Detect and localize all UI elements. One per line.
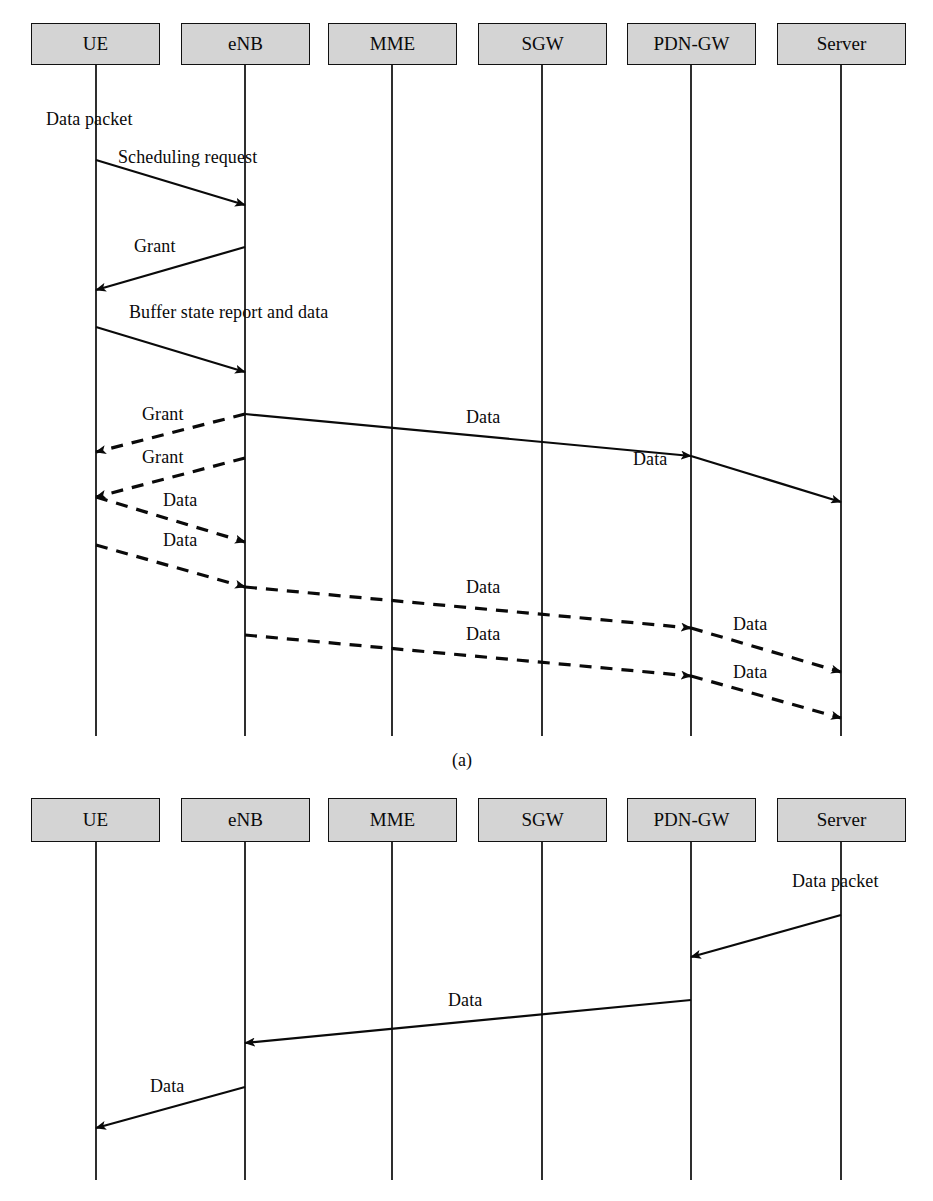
node-box-pdngw-b[interactable]: PDN-GW (627, 798, 756, 842)
message-label-scheduling-request: Scheduling request (118, 148, 257, 166)
message-label-data-pdngw-enb-b: Data (448, 991, 482, 1009)
node-label: PDN-GW (654, 33, 730, 55)
message-arrow-a-6 (691, 456, 841, 502)
node-box-server-a[interactable]: Server (777, 23, 906, 65)
node-box-enb-a[interactable]: eNB (181, 23, 310, 65)
message-arrow-a-3 (96, 327, 245, 372)
message-label-data-enb-pdngw-3: Data (466, 625, 500, 643)
message-arrow-a-9 (96, 545, 245, 587)
lifelines-group (96, 65, 841, 1180)
message-label-data-packet: Data packet (46, 110, 133, 128)
node-box-server-b[interactable]: Server (777, 798, 906, 842)
message-label-data-packet-b: Data packet (792, 872, 879, 890)
node-box-sgw-b[interactable]: SGW (478, 798, 607, 842)
figure-caption-a: (a) (452, 750, 472, 771)
sequence-diagram-canvas (0, 0, 933, 1201)
message-label-grant-3: Grant (142, 448, 183, 466)
message-label-data-enb-pdngw-2: Data (466, 578, 500, 596)
node-box-sgw-a[interactable]: SGW (478, 23, 607, 65)
message-arrow-b-1 (691, 915, 841, 957)
message-label-grant-1: Grant (134, 237, 175, 255)
message-arrow-a-13 (691, 676, 841, 718)
message-label-data-pdngw-server-1: Data (633, 450, 667, 468)
message-label-data-enb-ue-b: Data (150, 1077, 184, 1095)
message-label-data-pdngw-server-2: Data (733, 615, 767, 633)
node-label: UE (83, 33, 108, 55)
node-box-ue-a[interactable]: UE (31, 23, 160, 65)
node-label: Server (817, 33, 867, 55)
message-label-data-ue-enb-2: Data (163, 531, 197, 549)
node-label: MME (370, 809, 415, 831)
node-box-enb-b[interactable]: eNB (181, 798, 310, 842)
message-label-grant-2: Grant (142, 405, 183, 423)
node-box-ue-b[interactable]: UE (31, 798, 160, 842)
message-label-buffer-state-report: Buffer state report and data (129, 303, 328, 321)
node-label: UE (83, 809, 108, 831)
node-label: PDN-GW (654, 809, 730, 831)
node-label: SGW (521, 33, 563, 55)
message-label-data-ue-enb-1: Data (163, 491, 197, 509)
message-label-data-enb-pdngw-1: Data (466, 408, 500, 426)
node-box-mme-a[interactable]: MME (328, 23, 457, 65)
node-label: SGW (521, 809, 563, 831)
node-box-pdngw-a[interactable]: PDN-GW (627, 23, 756, 65)
message-label-data-pdngw-server-3: Data (733, 663, 767, 681)
node-label: eNB (228, 809, 263, 831)
node-label: MME (370, 33, 415, 55)
node-label: eNB (228, 33, 263, 55)
node-box-mme-b[interactable]: MME (328, 798, 457, 842)
node-label: Server (817, 809, 867, 831)
